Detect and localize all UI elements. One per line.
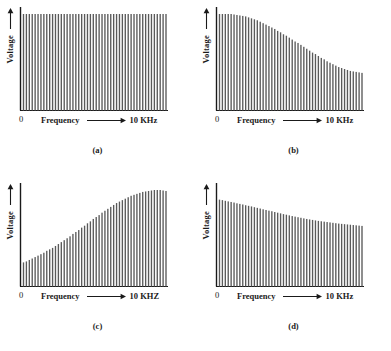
spectrum-bar [136,194,137,287]
spectrum-bar [262,209,263,286]
spectrum-bar [233,203,234,287]
spectrum-bar [338,67,339,110]
spectrum-bar [119,202,120,287]
spectrum-bar [55,246,56,287]
spectrum-bar [353,225,354,286]
spectrum-bar [283,34,284,110]
spectrum-bar [233,14,234,110]
spectrum-bar [148,191,149,287]
spectrum-bar [128,197,129,286]
spectrum-bar [251,18,252,110]
spectrum-panel-c: Voltage 0 Frequency 10 KHZ (c) [0,176,195,351]
spectrum-bar [43,253,44,287]
x-axis-label-group-d: Frequency 10 KHz [237,290,353,302]
spectrum-bar [294,217,295,287]
spectrum-bar [139,14,140,111]
y-axis-label-group-d: Voltage [198,184,214,284]
spectrum-bar [341,224,342,287]
spectrum-bar [332,223,333,287]
spectrum-bar [358,226,359,287]
spectrum-bar [222,14,223,111]
spectrum-bar [335,223,336,286]
spectrum-bar [128,14,129,111]
spectrum-bar [110,14,111,111]
spectrum-bar [303,218,304,286]
spectrum-bar [312,220,313,287]
spectrum-bar [119,14,120,111]
spectrum-bar [154,190,155,287]
spectrum-bar [286,36,287,111]
spectrum-bar [358,72,359,110]
spectrum-bar [34,14,35,111]
y-axis-label-c: Voltage [6,211,15,239]
spectrum-bar [309,219,310,286]
spectrum-bar [90,14,91,111]
spectrum-bar [248,206,249,287]
spectrum-bar [219,200,220,287]
spectrum-bar [254,19,255,110]
right-arrow-icon [283,117,323,124]
spectrum-bar [228,201,229,286]
spectrum-bar [289,38,290,111]
spectrum-bar [321,221,322,286]
panel-caption-d: (d) [196,322,391,331]
spectrum-bar [113,14,114,111]
spectrum-bar [361,73,362,111]
spectrum-bar [122,200,123,286]
spectrum-bar [40,14,41,111]
spectrum-bar [52,14,53,111]
spectrum-bar [245,16,246,110]
spectrum-bar [23,14,24,111]
spectrum-bar [242,204,243,286]
spectrum-bar [347,224,348,286]
x-axis-label-b: Frequency [237,116,276,125]
spectrum-bar [361,226,362,287]
spectrum-bar [268,211,269,287]
spectrum-bar [230,202,231,287]
spectrum-bar [257,20,258,110]
right-arrow-icon [283,293,323,300]
y-axis-label-group-a: Voltage [2,8,18,108]
y-axis-label-group-b: Voltage [198,8,214,108]
spectrum-bar [350,71,351,111]
spectrum-bar [280,213,281,286]
spectrum-bar [260,22,261,111]
spectrum-bar [271,211,272,286]
spectrum-bar [262,23,263,110]
spectrum-bar [353,71,354,110]
spectrum-bar [160,14,161,111]
spectrum-bar [251,206,252,286]
spectrum-bar [104,211,105,287]
spectrum-bar [93,14,94,111]
spectrum-bar [58,244,59,286]
spectrum-bars [219,14,363,111]
x-origin-label-c: 0 [19,291,23,300]
spectrum-bar [283,214,284,286]
spectrum-bar [347,70,348,111]
spectrum-bar [84,226,85,287]
spectrum-bar [133,195,134,287]
spectrum-bar [69,236,70,286]
spectrum-bar [277,213,278,287]
spectrum-bar [356,225,357,286]
up-arrow-icon [203,8,210,30]
spectrum-bar [145,14,146,111]
spectrum-bar [230,14,231,111]
spectrum-bar [133,14,134,111]
spectrum-bar [315,54,316,110]
x-axis-label-c: Frequency [41,292,80,301]
spectrum-bar [107,209,108,287]
right-arrow-icon [87,117,127,124]
right-arrow-icon [87,293,127,300]
spectrum-bar [75,14,76,111]
spectrum-bar [61,14,62,111]
spectrum-bar [239,15,240,110]
up-arrow-icon [7,184,14,206]
spectrum-bar [271,28,272,111]
spectrum-bar [40,254,41,286]
spectrum-bar [289,215,290,286]
spectrum-bar [239,204,240,287]
spectrum-bar [160,190,161,287]
x-max-label-b: 10 KHz [326,116,354,125]
spectrum-bar [113,205,114,287]
